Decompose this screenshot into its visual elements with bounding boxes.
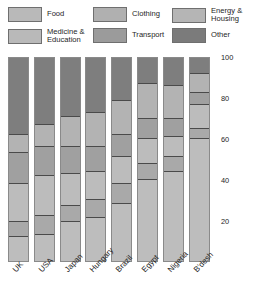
bar-segment <box>112 135 131 157</box>
bar-segment <box>61 117 80 147</box>
stacked-bar[interactable] <box>111 57 132 262</box>
legend-item[interactable]: Food <box>8 7 64 22</box>
bar-segment <box>35 216 54 234</box>
legend-item-label: Medicine & Education <box>47 28 85 45</box>
y-axis-tick-label: 80 <box>221 94 229 103</box>
bar-segment <box>190 93 209 105</box>
bar-segment <box>9 135 28 153</box>
bar-segment <box>61 206 80 222</box>
bar-segment <box>9 184 28 223</box>
bar-segment <box>164 172 183 261</box>
legend-item-label: Other <box>211 31 230 39</box>
x-axis-tick-label: UK <box>11 260 25 274</box>
bar-segment <box>9 222 28 236</box>
stacked-bar[interactable] <box>189 57 210 262</box>
stacked-bars-container <box>8 57 215 262</box>
bar-segment <box>9 153 28 183</box>
bar-segment <box>35 176 54 217</box>
bar-segment <box>138 180 157 261</box>
x-axis-labels: UKUSAJapanHungaryBrazilEgyptNigeriaB'des… <box>0 262 253 298</box>
legend-item-label: Food <box>47 10 64 18</box>
legend-item[interactable]: Energy & Housing <box>172 7 242 24</box>
stacked-bar[interactable] <box>60 57 81 262</box>
bar-segment <box>138 164 157 180</box>
bar-segment <box>190 58 209 74</box>
bar-segment <box>138 119 157 139</box>
chart-legend: FoodMedicine & EducationClothingTranspor… <box>0 0 253 50</box>
bar-segment <box>61 58 80 117</box>
bar-segment <box>112 184 131 204</box>
y-axis-tick-label: 40 <box>221 176 229 185</box>
legend-item[interactable]: Clothing <box>93 7 160 22</box>
legend-item[interactable]: Other <box>172 28 230 43</box>
stacked-bar[interactable] <box>85 57 106 262</box>
bar-segment <box>112 58 131 101</box>
y-axis-tick-label: 20 <box>221 217 229 226</box>
bar-segment <box>164 157 183 171</box>
bar-segment <box>138 84 157 119</box>
legend-swatch-icon <box>93 28 127 43</box>
bar-segment <box>190 74 209 92</box>
bar-segment <box>61 147 80 173</box>
bar-segment <box>190 129 209 139</box>
bar-segment <box>164 86 183 118</box>
bar-segment <box>112 204 131 261</box>
bar-segment <box>164 58 183 86</box>
stacked-bar[interactable] <box>163 57 184 262</box>
legend-item-label: Energy & Housing <box>211 7 242 24</box>
legend-swatch-icon <box>172 28 206 43</box>
legend-item[interactable]: Medicine & Education <box>8 28 85 45</box>
bar-segment <box>35 235 54 261</box>
bar-segment <box>112 101 131 136</box>
bar-segment <box>86 113 105 148</box>
legend-swatch-icon <box>93 7 127 22</box>
y-axis-tick-label: 60 <box>221 135 229 144</box>
legend-swatch-icon <box>8 29 42 44</box>
legend-swatch-icon <box>8 7 42 22</box>
bar-segment <box>35 125 54 147</box>
bar-segment <box>35 147 54 175</box>
stacked-bar[interactable] <box>34 57 55 262</box>
chart-plot-area: 20406080100 UKUSAJapanHungaryBrazilEgypt… <box>0 50 253 298</box>
bar-segment <box>86 200 105 218</box>
bar-segment <box>190 139 209 261</box>
y-axis-tick-label: 100 <box>221 53 233 62</box>
bar-segment <box>112 157 131 183</box>
bar-segment <box>138 58 157 84</box>
legend-item-label: Transport <box>132 31 164 39</box>
bar-segment <box>9 237 28 261</box>
stacked-bar[interactable] <box>8 57 29 262</box>
legend-item[interactable]: Transport <box>93 28 164 43</box>
legend-swatch-icon <box>172 8 206 23</box>
legend-item-label: Clothing <box>132 10 160 18</box>
bar-segment <box>86 147 105 171</box>
bar-segment <box>86 58 105 113</box>
y-axis: 20406080100 <box>219 50 253 298</box>
bar-segment <box>35 58 54 125</box>
bar-segment <box>190 105 209 129</box>
stacked-bar[interactable] <box>137 57 158 262</box>
bar-segment <box>61 174 80 206</box>
bar-segment <box>164 119 183 137</box>
bar-segment <box>138 139 157 163</box>
bar-segment <box>164 137 183 157</box>
bar-segment <box>86 172 105 200</box>
bar-segment <box>9 58 28 135</box>
